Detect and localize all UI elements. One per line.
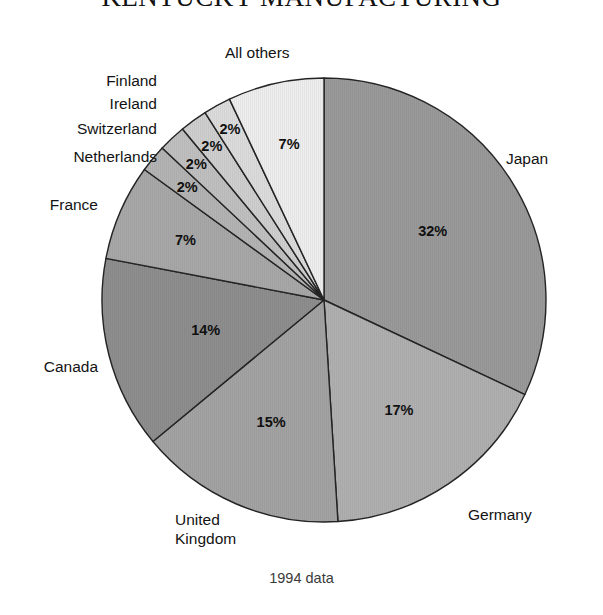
chart-caption: 1994 data [0,570,603,586]
slice-value-label: 2% [219,121,240,137]
slice-value-label: 2% [201,138,222,154]
slice-value-label: 7% [175,232,196,248]
pie-chart: KENTUCKY MANUFACTURING 32%17%15%14%7%2%2… [0,0,603,615]
pie-graphic: 32%17%15%14%7%2%2%2%2%7% [0,0,603,615]
slice-value-label: 32% [418,223,447,239]
slice-value-label: 14% [191,322,220,338]
slice-value-label: 2% [186,156,207,172]
slice-value-label: 2% [177,179,198,195]
slice-value-label: 15% [257,414,286,430]
slice-value-label: 17% [384,402,413,418]
slice-value-label: 7% [279,136,300,152]
